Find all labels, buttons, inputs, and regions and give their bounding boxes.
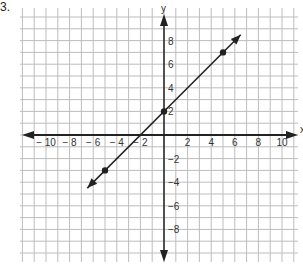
x-tick-label: − 8 <box>63 137 78 148</box>
y-axis-label: y <box>161 3 166 14</box>
x-axis-right-arrow-icon <box>286 131 298 139</box>
y-axis-down-arrow-icon <box>160 250 168 262</box>
y-tick-label: 6 <box>168 59 174 70</box>
data-point <box>161 108 167 114</box>
data-point <box>102 167 108 173</box>
y-tick-label: −2 <box>168 154 180 165</box>
x-tick-label: − 6 <box>86 137 101 148</box>
x-axis-left-arrow-icon <box>22 131 34 139</box>
y-tick-label: −4 <box>168 177 180 188</box>
x-tick-label: 2 <box>185 137 191 148</box>
x-tick-label: 4 <box>208 137 214 148</box>
x-tick-label: 10 <box>276 137 288 148</box>
y-tick-label: −6 <box>168 201 180 212</box>
x-tick-label: − 10 <box>36 137 56 148</box>
y-tick-label: −8 <box>168 224 180 235</box>
x-tick-label: − 4 <box>110 137 125 148</box>
x-tick-label: − 2 <box>133 137 148 148</box>
y-axis-up-arrow-icon <box>160 14 168 26</box>
x-tick-label: 8 <box>256 137 262 148</box>
coordinate-graph: xy− 10− 8− 6− 4− 22468108642−2−4−6−8 <box>0 0 303 267</box>
y-tick-label: 4 <box>168 83 174 94</box>
data-point <box>220 49 226 55</box>
y-tick-label: 2 <box>168 106 174 117</box>
x-axis-label: x <box>300 124 303 135</box>
x-tick-label: 6 <box>232 137 238 148</box>
y-tick-label: 8 <box>168 36 174 47</box>
